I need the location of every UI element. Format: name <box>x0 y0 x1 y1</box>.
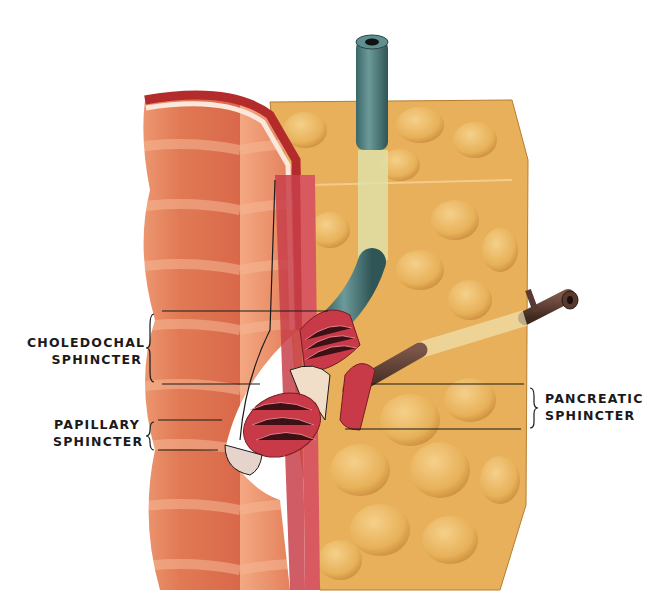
pancreatic-line1: PANCREATIC <box>545 390 644 407</box>
papillary-line1: PAPILLARY <box>53 416 140 433</box>
choledochal-line2: SPHINCTER <box>27 351 142 368</box>
pancreatic-line2: SPHINCTER <box>545 407 644 424</box>
duodenal-wall <box>143 95 320 590</box>
label-pancreatic-sphincter: PANCREATIC SPHINCTER <box>545 390 644 424</box>
label-papillary-sphincter: PAPILLARY SPHINCTER <box>53 416 140 450</box>
papillary-line2: SPHINCTER <box>53 433 140 450</box>
label-choledochal-sphincter: CHOLEDOCHAL SPHINCTER <box>27 334 142 368</box>
anatomy-illustration <box>0 0 667 611</box>
choledochal-line1: CHOLEDOCHAL <box>27 334 142 351</box>
